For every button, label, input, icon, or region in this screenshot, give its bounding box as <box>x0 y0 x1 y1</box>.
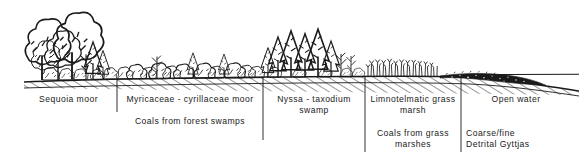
zone-label-nyssa: Nyssa - taxodium swamp <box>263 94 365 115</box>
zone-drawing-grass-marsh <box>366 59 437 77</box>
zone-label-sequoia: Sequoia moor <box>20 94 117 105</box>
product-label-gyttjas: Coarse/fine Detrital Gyttjas <box>466 128 576 149</box>
zone-drawing-sequoia <box>25 12 118 80</box>
zone-drawing-myricaceae <box>116 53 264 79</box>
zone-label-openwater: Open water <box>461 94 571 105</box>
zone-drawing-nyssa <box>261 29 365 77</box>
figure-canvas: Sequoia moor Myricaceae - cyrillaceae mo… <box>0 0 579 161</box>
zone-label-limnotelmatic: Limnotelmatic grass marsh <box>365 94 461 115</box>
product-label-forest-swamps: Coals from forest swamps <box>117 116 263 127</box>
product-label-grass-marshes: Coals from grass marshes <box>365 128 461 149</box>
zone-label-myricaceae: Myricaceae - cyrillaceae moor <box>117 94 263 105</box>
